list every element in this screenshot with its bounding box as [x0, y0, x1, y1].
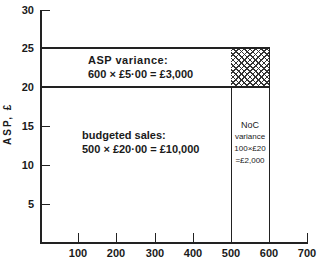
y-tick-10 — [40, 165, 50, 166]
quantity-line-600 — [269, 47, 270, 243]
quantity-line-500 — [231, 86, 232, 243]
noc-formula: 100×£20 — [234, 143, 266, 155]
asp-variance-title: ASP variance: — [88, 53, 193, 67]
asp-variance-formula: 600 × £5·00 = £3,000 — [88, 67, 193, 81]
y-tick-label-5: 5 — [14, 198, 34, 210]
noc-subtitle: variance — [234, 131, 266, 143]
y-tick-label-20: 20 — [14, 81, 34, 93]
budgeted-sales-title: budgeted sales: — [82, 128, 199, 142]
budgeted-sales-label: budgeted sales: 500 × £20·00 = £10,000 — [82, 128, 199, 156]
x-tick-label-300: 300 — [140, 247, 170, 259]
noc-result: =£2,000 — [234, 155, 266, 167]
y-axis-title: ASP, £ — [2, 103, 13, 145]
y-tick-15 — [40, 126, 50, 127]
y-tick-label-15: 15 — [14, 120, 34, 132]
x-axis — [40, 242, 308, 244]
y-tick-label-25: 25 — [14, 42, 34, 54]
x-tick-label-700: 700 — [292, 247, 322, 259]
y-tick-label-10: 10 — [14, 159, 34, 171]
x-tick-700 — [307, 233, 308, 243]
x-tick-label-500: 500 — [216, 247, 246, 259]
x-tick-100 — [78, 233, 79, 243]
x-tick-label-600: 600 — [254, 247, 284, 259]
x-tick-label-100: 100 — [63, 247, 93, 259]
x-tick-400 — [193, 233, 194, 243]
overlap-hatched-region — [231, 48, 269, 87]
x-tick-300 — [155, 233, 156, 243]
x-tick-label-400: 400 — [178, 247, 208, 259]
budgeted-sales-formula: 500 × £20·00 = £10,000 — [82, 142, 199, 156]
price-line-25 — [40, 47, 270, 49]
price-line-20 — [40, 86, 270, 88]
x-tick-200 — [116, 233, 117, 243]
asp-variance-label: ASP variance: 600 × £5·00 = £3,000 — [88, 53, 193, 81]
x-tick-label-200: 200 — [101, 247, 131, 259]
y-tick-30 — [40, 10, 50, 11]
y-tick-5 — [40, 204, 50, 205]
noc-title: NoC — [234, 119, 266, 131]
y-tick-label-30: 30 — [14, 4, 34, 16]
noc-variance-label: NoC variance 100×£20 =£2,000 — [234, 119, 266, 167]
